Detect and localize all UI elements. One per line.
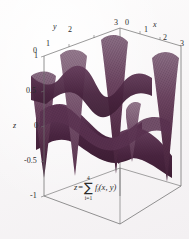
plot-canvas <box>0 0 189 239</box>
formula-lhs: z <box>74 182 77 192</box>
sigma-glyph: ∑ <box>84 180 93 195</box>
x-tick-0: 0 <box>125 19 129 27</box>
surface-mesh <box>31 35 179 182</box>
z-axis-label: z <box>13 122 16 130</box>
x-axis-label: x <box>153 21 157 29</box>
summation-symbol: 4∑i=1 <box>84 183 93 193</box>
formula-arguments: (x, y) <box>99 182 116 192</box>
summation-upper-limit: 4 <box>87 176 90 180</box>
formula-annotation: z=4∑i=1fi(x, y) <box>74 183 116 194</box>
x-tick-3: 3 <box>180 40 184 48</box>
z-tick-neg0p5: -0.5 <box>24 157 37 165</box>
y-axis-label: y <box>53 23 57 31</box>
z-tick-0p5: 0.5 <box>26 87 36 95</box>
summation-lower-limit: i=1 <box>85 196 92 200</box>
z-tick-0: 0 <box>34 122 38 130</box>
y-tick-2: 2 <box>68 26 72 34</box>
y-tick-1: 1 <box>46 40 50 48</box>
formula-equals: = <box>78 182 83 192</box>
y-tick-3: 3 <box>114 19 118 27</box>
z-tick-neg1: -1 <box>30 192 37 200</box>
surface-plot-figure: 3 2 1 0 y 0 1 2 3 x 1 0.5 0 -0.5 -1 z z=… <box>0 0 189 239</box>
z-tick-1: 1 <box>34 52 38 60</box>
x-tick-1: 1 <box>144 26 148 34</box>
x-tick-2: 2 <box>163 34 167 42</box>
